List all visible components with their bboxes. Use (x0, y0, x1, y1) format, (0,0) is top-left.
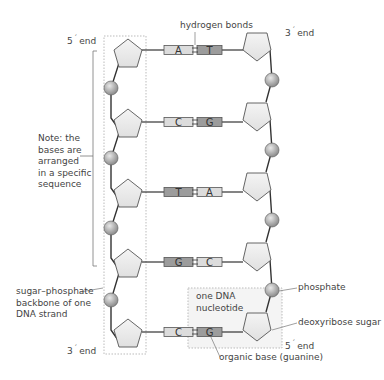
base-letter: A (206, 187, 213, 198)
backbone-label: sugar–phosphate backbone of one DNA stra… (16, 286, 93, 321)
base-letter: C (175, 117, 182, 128)
deoxyribose-sugar-label: deoxyribose sugar (298, 317, 381, 329)
base-pair: CG (164, 117, 222, 128)
base-pair: AT (164, 45, 222, 56)
base-pair: CG (164, 327, 222, 338)
hydrogen-bonds-label: hydrogen bonds (180, 20, 253, 32)
base-letter: C (206, 257, 213, 268)
base-letter: T (174, 187, 182, 198)
base-pair: GC (164, 257, 222, 268)
left-strand (104, 39, 142, 347)
base-letter: C (175, 327, 182, 338)
base-letter: G (206, 327, 214, 338)
base-letter: T (205, 45, 213, 56)
top-right-3-prime-end-label: 3´end (285, 28, 314, 41)
organic-base-label: organic base (guanine) (219, 352, 323, 364)
base-letter: G (206, 117, 214, 128)
sequence-note-label: Note: the bases are arranged in a specif… (38, 133, 91, 191)
base-letter: A (175, 45, 182, 56)
top-left-5-prime-end-label: 5´end (67, 36, 96, 49)
bottom-left-3-prime-end-label: 3´end (67, 346, 96, 359)
phosphate-label: phosphate (298, 282, 346, 294)
nucleotide-label: one DNA nucleotide (196, 291, 243, 314)
base-pair: TA (164, 187, 222, 198)
base-letter: G (175, 257, 183, 268)
